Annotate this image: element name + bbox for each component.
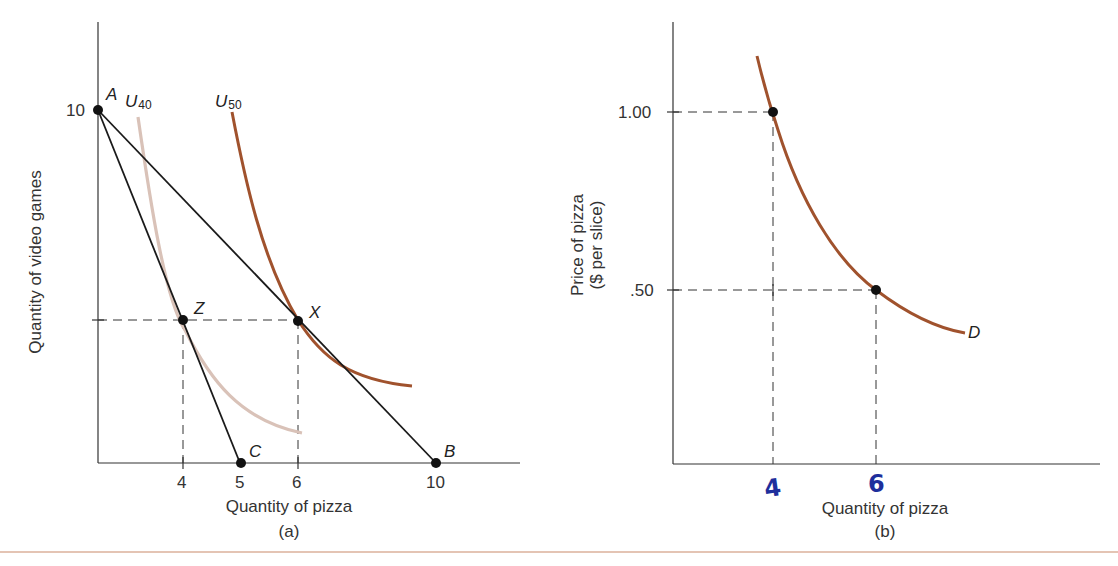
- panel-b-y-label: Price of pizza: [568, 193, 587, 296]
- demand-curve-label: D: [968, 323, 980, 342]
- panel-b-point-2: [871, 285, 881, 295]
- panel-b-x-label: Quantity of pizza: [822, 499, 949, 518]
- budget-line-ac: [98, 110, 240, 463]
- point-x: [293, 316, 303, 326]
- handwritten-4: 4: [762, 473, 782, 503]
- point-z-label: Z: [193, 299, 205, 318]
- point-c: [236, 458, 246, 468]
- panel-a-x-tick-label-6: 6: [292, 473, 301, 492]
- panel-a-x-label: Quantity of pizza: [226, 497, 353, 516]
- panel-a-caption: (a): [279, 522, 300, 541]
- budget-line-ab: [98, 110, 436, 463]
- panel-a-y-label: Quantity of video games: [26, 170, 45, 353]
- point-a-label: A: [105, 85, 117, 104]
- panel-b-y-tick-label-100: 1.00: [618, 103, 651, 122]
- u40-label: U40: [125, 92, 152, 112]
- indifference-curve-u40: [138, 117, 302, 433]
- point-x-label: X: [308, 303, 321, 322]
- point-z: [178, 315, 188, 325]
- panel-b-y-tick-label-50: .50: [630, 281, 654, 300]
- point-c-label: C: [249, 442, 262, 461]
- panel-b: D 1.00 .50 4 6 Quantity of pizza Price o…: [568, 22, 1100, 541]
- point-b-label: B: [444, 442, 455, 461]
- handwritten-6: 6: [868, 470, 885, 498]
- panel-a-x-tick-label-4: 4: [177, 473, 186, 492]
- demand-curve-d: [757, 56, 965, 333]
- panel-a-x-tick-label-5: 5: [235, 473, 244, 492]
- panel-b-y-label-units: ($ per slice): [587, 201, 606, 290]
- u50-label: U50: [215, 92, 242, 112]
- point-b: [431, 458, 441, 468]
- panel-a: A Z X C B U40 U50 10 4 5 6 10 Quantity o…: [26, 22, 520, 541]
- panel-a-x-tick-label-10: 10: [426, 473, 445, 492]
- point-a: [93, 105, 103, 115]
- panel-b-caption: (b): [875, 522, 896, 541]
- figure: A Z X C B U40 U50 10 4 5 6 10 Quantity o…: [0, 0, 1118, 566]
- panel-b-point-1: [768, 107, 778, 117]
- panel-a-y-tick-10: 10: [66, 101, 85, 120]
